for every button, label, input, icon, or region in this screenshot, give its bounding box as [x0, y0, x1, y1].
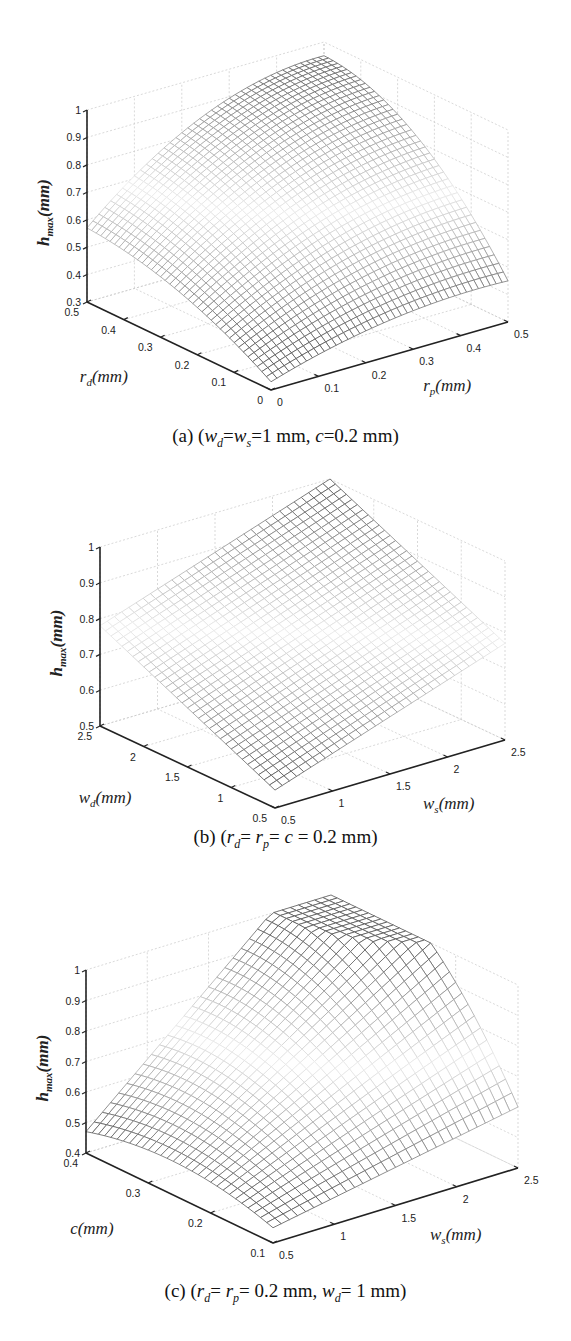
z-tick-label: 0.7 — [65, 1056, 80, 1068]
x-tick-label: 0.5 — [279, 1249, 294, 1261]
x-tick-label: 2 — [463, 1193, 469, 1205]
y-tick-label: 0.3 — [126, 1187, 141, 1199]
z-tick-label: 0.5 — [65, 1117, 80, 1129]
x-tick-label: 2.5 — [524, 1174, 539, 1186]
x-tick-label: 1 — [340, 1230, 346, 1242]
y-tick-label: 0.2 — [188, 1217, 203, 1229]
x-tick-label: 1.5 — [402, 1212, 417, 1224]
y-tick-label: 0.4 — [63, 1157, 78, 1169]
x-axis-label: ws(mm) — [430, 1225, 482, 1246]
z-tick-label: 0.6 — [65, 1086, 80, 1098]
z-tick-label: 0.8 — [65, 1025, 80, 1037]
z-tick-label: 1 — [74, 964, 80, 976]
caption-c: (c) (rd= rp= 0.2 mm, wd= 1 mm) — [0, 1280, 571, 1306]
y-tick-label: 0.1 — [250, 1247, 265, 1259]
y-axis-label: c(mm) — [70, 1219, 114, 1238]
z-tick-label: 0.9 — [65, 995, 80, 1007]
chart-panel-c: 0.40.50.60.70.80.910.10.20.30.40.511.522… — [0, 0, 571, 1341]
surface-plot-c: 0.40.50.60.70.80.910.10.20.30.40.511.522… — [0, 0, 571, 1341]
surface-mesh — [86, 895, 518, 1228]
z-axis-label: hmax(mm) — [33, 1035, 54, 1102]
